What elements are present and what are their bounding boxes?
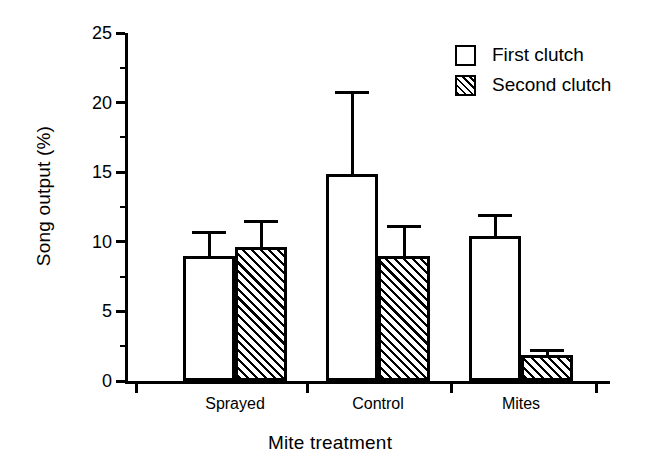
error-bar-stem <box>260 220 263 248</box>
x-axis-category-label: Sprayed <box>205 395 265 413</box>
y-axis-tick-label: 5 <box>72 301 112 322</box>
y-axis-minor-tick <box>120 206 125 208</box>
y-axis-minor-tick <box>120 276 125 278</box>
y-axis-tick-label: 10 <box>72 231 112 252</box>
y-axis-tick <box>116 101 125 104</box>
bar-mites-second-clutch <box>521 355 573 381</box>
y-axis-tick <box>116 310 125 313</box>
hatched-square-swatch <box>455 75 476 96</box>
error-bar-cap <box>387 225 421 228</box>
error-bar-stem <box>403 225 406 256</box>
y-axis-tick <box>116 32 125 35</box>
error-bar-cap <box>335 91 369 94</box>
error-bar-stem <box>351 91 354 173</box>
x-axis-tick <box>450 384 453 393</box>
legend-label: Second clutch <box>492 74 611 96</box>
legend-item-first-clutch: First clutch <box>455 40 611 70</box>
x-axis-category-label: Mites <box>502 395 540 413</box>
error-bar-cap <box>530 349 564 352</box>
bar-sprayed-first-clutch <box>183 256 235 381</box>
legend-item-second-clutch: Second clutch <box>455 70 611 100</box>
y-axis-minor-tick <box>120 345 125 347</box>
y-axis-tick <box>116 240 125 243</box>
error-bar-cap <box>478 214 512 217</box>
y-axis-tick-label: 25 <box>72 23 112 44</box>
bar-chart-figure: Song output (%) Mite treatment 051015202… <box>0 0 660 468</box>
y-axis-title: Song output (%) <box>33 46 55 346</box>
y-axis-tick-label: 20 <box>72 92 112 113</box>
legend-label: First clutch <box>492 44 584 66</box>
x-axis-tick <box>135 384 138 393</box>
bar-mites-first-clutch <box>469 236 521 381</box>
bar-control-second-clutch <box>378 256 430 381</box>
x-axis-line <box>125 381 610 384</box>
x-axis-category-label: Control <box>352 395 404 413</box>
y-axis-line <box>125 33 128 381</box>
bar-sprayed-second-clutch <box>235 247 287 381</box>
y-axis-tick <box>116 380 125 383</box>
error-bar-cap <box>192 231 226 234</box>
y-axis-tick-label: 0 <box>72 371 112 392</box>
bar-control-first-clutch <box>326 174 378 381</box>
y-axis-minor-tick <box>120 136 125 138</box>
error-bar-cap <box>244 220 278 223</box>
error-bar-stem <box>494 214 497 236</box>
y-axis-tick <box>116 171 125 174</box>
open-square-swatch <box>455 45 476 66</box>
error-bar-stem <box>208 231 211 256</box>
x-axis-title: Mite treatment <box>0 432 660 454</box>
x-axis-tick <box>595 384 598 393</box>
y-axis-tick-label: 15 <box>72 162 112 183</box>
legend: First clutch Second clutch <box>455 40 611 100</box>
y-axis-minor-tick <box>120 67 125 69</box>
x-axis-tick <box>306 384 309 393</box>
